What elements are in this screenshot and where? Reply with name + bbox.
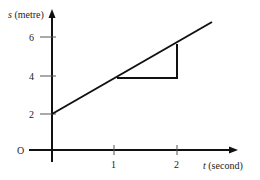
gradient-triangle xyxy=(117,44,177,78)
x-tick-label-1: 1 xyxy=(111,159,116,170)
displacement-time-graph: s (metre) 6 4 2 O 1 2 t (second) xyxy=(0,0,260,180)
chart-canvas: s (metre) 6 4 2 O 1 2 t (second) xyxy=(0,0,260,180)
y-axis-label: s (metre) xyxy=(8,9,44,21)
y-tick-label-6: 6 xyxy=(29,32,34,43)
data-line xyxy=(52,22,212,114)
y-tick-label-4: 4 xyxy=(29,71,34,82)
x-axis-label: t (second) xyxy=(203,160,243,172)
y-axis-arrow-icon xyxy=(49,9,56,18)
x-axis-arrow-icon xyxy=(229,147,238,154)
y-tick-label-2: 2 xyxy=(29,109,34,120)
origin-label: O xyxy=(17,145,24,156)
x-tick-label-2: 2 xyxy=(174,159,179,170)
